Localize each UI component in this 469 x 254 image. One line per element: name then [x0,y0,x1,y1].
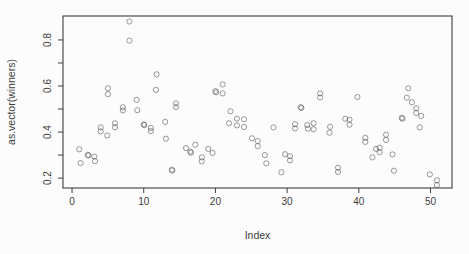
data-point [220,82,225,87]
data-point [193,142,198,147]
data-point [279,170,284,175]
data-point [406,86,411,91]
data-point [262,153,267,158]
data-point [327,130,332,135]
data-point [234,116,239,121]
data-point [134,97,139,102]
x-tick-label: 40 [353,196,365,207]
data-points [77,19,440,188]
data-point [311,121,316,126]
data-point [427,172,432,177]
data-point [355,94,360,99]
data-point [282,152,287,157]
y-axis-label: as.vector(winners) [5,59,17,145]
data-point [135,108,140,113]
figure-container: 01020304050 0.20.40.60.8 Index as.vector… [0,0,469,254]
data-point [264,161,269,166]
data-point [148,129,153,134]
data-point [120,108,125,113]
data-point [255,138,260,143]
data-point [390,152,395,157]
data-point [173,105,178,110]
y-tick-label: 0.8 [42,33,53,47]
data-point [199,159,204,164]
data-point [226,121,231,126]
y-tick-label: 0.4 [42,125,53,139]
x-tick-label: 30 [282,196,294,207]
x-tick-label: 50 [425,196,437,207]
data-point [347,122,352,127]
data-point [383,137,388,142]
x-axis-label: Index [245,229,271,241]
x-tick-label: 0 [69,196,75,207]
data-point [328,124,333,129]
data-point [220,91,225,96]
data-point [127,38,132,43]
data-point [311,127,316,132]
data-point [242,117,247,122]
data-point [112,125,117,130]
data-point [228,109,233,114]
data-point [163,119,168,124]
data-point [154,72,159,77]
data-point [105,86,110,91]
x-tick-label: 10 [138,196,150,207]
data-point [409,100,414,105]
data-point [419,113,424,118]
data-point [127,19,132,24]
plot-box [63,16,452,188]
scatter-plot: 01020304050 0.20.40.60.8 Index as.vector… [0,0,469,254]
data-point [78,161,83,166]
data-point [249,136,254,141]
data-point [105,92,110,97]
plot-border [63,16,452,188]
data-point [417,125,422,130]
data-point [105,133,110,138]
data-point [77,147,82,152]
data-point [163,136,168,141]
data-point [153,87,158,92]
data-point [210,150,215,155]
y-tick-label: 0.6 [42,79,53,93]
y-tick-label: 0.2 [42,171,53,185]
data-point [242,124,247,129]
data-point [383,132,388,137]
data-point [370,155,375,160]
x-axis: 01020304050 [69,188,436,207]
data-point [206,146,211,151]
data-point [305,126,310,131]
y-axis: 0.20.40.60.8 [42,33,63,185]
data-point [255,144,260,149]
x-tick-label: 20 [210,196,222,207]
data-point [391,168,396,173]
data-point [271,125,276,130]
data-point [404,95,409,100]
data-point [234,123,239,128]
